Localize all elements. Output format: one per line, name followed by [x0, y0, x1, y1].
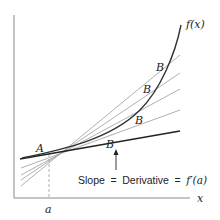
- equals-1: =: [110, 174, 116, 186]
- point-b-label-1: B: [155, 61, 164, 74]
- tangent-line: [20, 131, 180, 159]
- arrow-up-icon: [114, 149, 119, 155]
- equals-2: =: [175, 174, 181, 186]
- slope-annotation: Slope = Derivative = f′(a): [78, 174, 207, 186]
- secant-line-3: [21, 89, 180, 175]
- point-b-label-3: B: [134, 114, 143, 127]
- point-b-label-4: B: [105, 138, 114, 151]
- derivative-word: Derivative: [122, 174, 169, 186]
- derivative-formula: f′(a): [185, 174, 207, 186]
- x-axis-label: x: [197, 192, 204, 205]
- secant-lines: [21, 55, 180, 186]
- secant-line-1: [21, 55, 180, 186]
- slope-word: Slope: [78, 174, 105, 186]
- function-curve: [22, 25, 181, 158]
- diagram-canvas: A B B B B f(x) Slope = Derivative = f′(a…: [0, 0, 220, 220]
- point-a-label: A: [35, 142, 44, 155]
- a-tick-label: a: [45, 203, 52, 216]
- derivative-diagram: A B B B B f(x) Slope = Derivative = f′(a…: [0, 0, 220, 220]
- curve-label: f(x): [185, 18, 205, 31]
- secant-line-4: [21, 110, 180, 168]
- point-b-label-2: B: [142, 83, 151, 96]
